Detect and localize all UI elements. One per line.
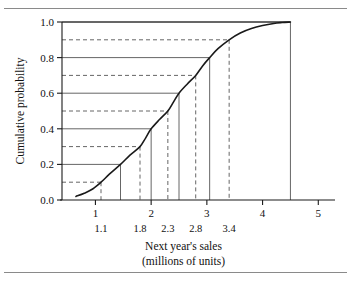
tick-labels-group: 123450.00.20.40.60.81.01.11.82.32.83.4 bbox=[40, 16, 321, 234]
cumulative-probability-chart: 123450.00.20.40.60.81.01.11.82.32.83.4 N… bbox=[0, 0, 351, 281]
decile-value-label: 1.1 bbox=[94, 223, 107, 234]
y-tick-label: 1.0 bbox=[40, 16, 54, 28]
curve-group bbox=[62, 22, 290, 196]
gridlines-group bbox=[62, 22, 290, 182]
y-tick-label: 0.6 bbox=[40, 87, 54, 99]
y-tick-label: 0.2 bbox=[40, 158, 54, 170]
y-axis-title: Cumulative probability bbox=[14, 57, 27, 164]
y-tick-label: 0.8 bbox=[40, 52, 54, 64]
axes-group bbox=[60, 22, 335, 200]
x-tick-label: 3 bbox=[204, 207, 210, 219]
decile-value-label: 2.3 bbox=[161, 223, 174, 234]
figure-container: 123450.00.20.40.60.81.01.11.82.32.83.4 N… bbox=[0, 0, 351, 281]
y-tick-label: 0.0 bbox=[40, 194, 54, 206]
x-tick-label: 5 bbox=[316, 207, 322, 219]
y-tick-label: 0.4 bbox=[40, 123, 54, 135]
decile-value-label: 1.8 bbox=[133, 223, 146, 234]
tick-marks-group bbox=[57, 22, 318, 205]
x-tick-label: 1 bbox=[93, 207, 99, 219]
x-tick-label: 4 bbox=[260, 207, 266, 219]
decile-value-label: 3.4 bbox=[223, 223, 237, 234]
x-tick-label: 2 bbox=[148, 207, 154, 219]
decile-value-label: 2.8 bbox=[189, 223, 202, 234]
x-axis-title-line1: Next year's sales bbox=[145, 240, 222, 253]
bottom-divider-rule bbox=[4, 272, 347, 273]
x-axis-title-line2: (millions of units) bbox=[142, 255, 225, 268]
top-divider-rule bbox=[4, 8, 347, 9]
cumulative-distribution-curve bbox=[76, 22, 291, 196]
decile-droplines-group bbox=[101, 22, 290, 200]
